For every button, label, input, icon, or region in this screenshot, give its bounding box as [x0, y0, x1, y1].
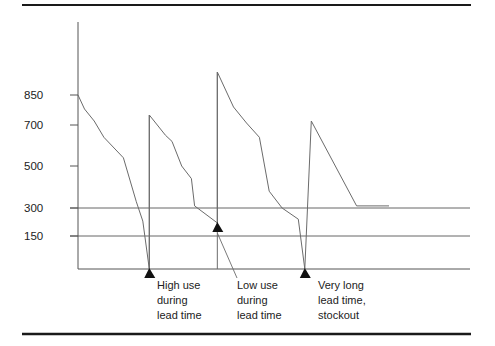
inventory-series: [78, 72, 389, 269]
axes: [78, 22, 470, 269]
annotation-low-use: Low use during lead time: [237, 279, 282, 321]
y-tick-label-150: 150: [24, 230, 43, 242]
annotation-stockout-line1: Very long: [318, 279, 364, 291]
annotation-high-use-line1: High use: [157, 279, 200, 291]
annotation-arrows: [144, 222, 311, 278]
annotation-stockout-line2: lead time,: [318, 294, 366, 306]
annotation-high-use: High use during lead time: [157, 279, 202, 321]
y-axis-ticks: 850700500300150: [24, 89, 78, 242]
y-tick-label-700: 700: [24, 119, 43, 131]
annotation-stockout-line3: stockout: [318, 309, 359, 321]
y-tick-label-500: 500: [24, 160, 43, 172]
annotation-low-use-line2: during: [237, 294, 268, 306]
chart-canvas: 850700500300150 High use during lead tim…: [0, 0, 495, 346]
annotation-high-use-line3: lead time: [157, 309, 202, 321]
annotation-high-use-line2: during: [157, 294, 188, 306]
leader-line: [217, 233, 237, 278]
reference-lines: [70, 208, 470, 236]
y-tick-label-850: 850: [24, 89, 43, 101]
annotation-stockout: Very long lead time, stockout: [318, 279, 366, 321]
annotation-low-use-line1: Low use: [237, 279, 278, 291]
arrow-low-use-icon: [212, 222, 223, 232]
y-tick-label-300: 300: [24, 202, 43, 214]
annotation-low-use-line3: lead time: [237, 309, 282, 321]
inventory-chart: 850700500300150 High use during lead tim…: [0, 0, 495, 346]
inventory-line: [78, 72, 389, 269]
